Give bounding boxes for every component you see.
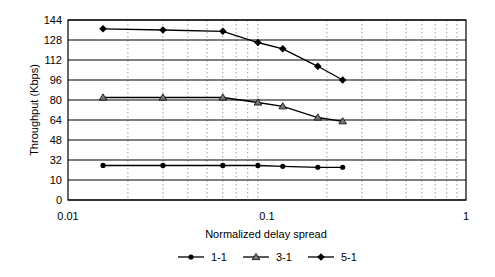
y-tick-label: 96	[50, 74, 62, 86]
diamond-marker-icon	[339, 76, 347, 84]
diamond-marker-icon	[314, 62, 322, 70]
y-tick-label: 80	[50, 94, 62, 106]
y-tick-label: 10	[50, 174, 62, 186]
series-5-1	[99, 25, 346, 84]
y-tick-label: 64	[50, 114, 62, 126]
legend-label: 1-1	[211, 251, 227, 263]
y-axis-tick-labels: 0103248648096112128144	[44, 14, 62, 206]
circle-marker-icon	[280, 164, 285, 169]
chart: 0103248648096112128144 0.010.11 Throughp…	[0, 0, 495, 277]
y-tick-label: 112	[44, 54, 62, 66]
throughput-chart: 0103248648096112128144 0.010.11 Throughp…	[0, 0, 495, 277]
y-tick-label: 48	[50, 134, 62, 146]
x-tick-label: 0.01	[57, 210, 78, 222]
legend-item-1-1: 1-1	[178, 251, 227, 263]
y-tick-label: 0	[56, 194, 62, 206]
y-tick-label: 144	[44, 14, 62, 26]
diamond-legend-icon	[317, 253, 325, 261]
y-axis-label: Throughput (Kbps)	[28, 64, 40, 156]
x-tick-label: 0.1	[259, 210, 274, 222]
y-tick-label: 32	[50, 154, 62, 166]
x-axis-tick-labels: 0.010.11	[57, 210, 469, 222]
circle-marker-icon	[100, 163, 105, 168]
legend-item-5-1: 5-1	[308, 251, 357, 263]
circle-marker-icon	[340, 165, 345, 170]
circle-marker-icon	[220, 163, 225, 168]
legend-label: 5-1	[341, 251, 357, 263]
x-tick-label: 1	[463, 210, 469, 222]
circle-legend-icon	[188, 254, 193, 259]
circle-marker-icon	[160, 163, 165, 168]
legend-item-3-1: 3-1	[243, 251, 292, 263]
legend-label: 3-1	[276, 251, 292, 263]
x-axis-label: Normalized delay spread	[205, 228, 327, 240]
diamond-marker-icon	[99, 25, 107, 33]
circle-marker-icon	[315, 165, 320, 170]
circle-marker-icon	[255, 163, 260, 168]
diamond-marker-icon	[159, 26, 167, 34]
legend: 1-13-15-1	[178, 251, 357, 263]
diamond-marker-icon	[219, 27, 227, 35]
y-tick-label: 128	[44, 34, 62, 46]
diamond-marker-icon	[279, 45, 287, 53]
